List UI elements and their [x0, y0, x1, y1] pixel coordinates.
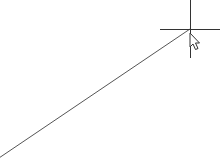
mouse-pointer-icon: [190, 33, 200, 50]
drawing-canvas[interactable]: [0, 0, 220, 158]
crosshair-icon: [160, 0, 220, 58]
drawn-line: [0, 29, 190, 158]
